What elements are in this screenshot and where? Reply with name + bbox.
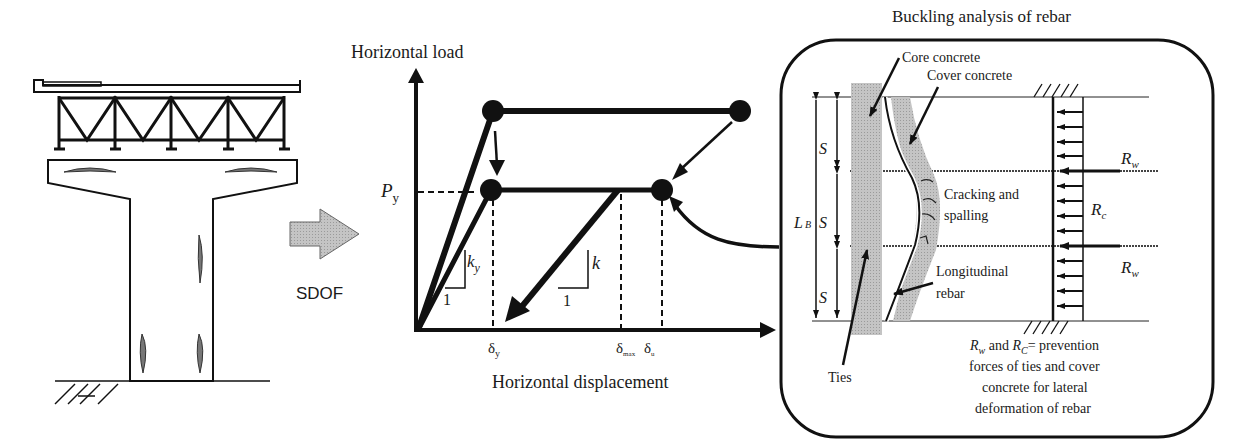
- lb-label: LB: [793, 214, 811, 231]
- arrow-diagonal-end: [680, 122, 732, 170]
- py-label: Py: [380, 180, 400, 205]
- core-concrete-strip: [851, 83, 882, 335]
- lower-bilinear-curve: [418, 190, 662, 330]
- x-axis-label: Horizontal displacement: [492, 372, 668, 392]
- cracking-label-1: Cracking and: [944, 187, 1019, 202]
- truss-girder: [54, 96, 290, 149]
- note-line-4: deformation of rebar: [975, 401, 1091, 416]
- sdof-transition: SDOF: [290, 209, 359, 303]
- point-upper-yield: [482, 100, 504, 122]
- y-axis-label: Horizontal load: [351, 42, 463, 62]
- point-lower-yield: [480, 179, 502, 201]
- note-line-2: forces of ties and cover: [969, 359, 1100, 374]
- delta-max-label: δmax: [616, 340, 636, 358]
- delta-y-label: δy: [488, 340, 500, 359]
- delta-u-label: δu: [644, 340, 655, 358]
- longitudinal-label-1: Longitudinal: [936, 264, 1008, 279]
- cracking-label-2: spalling: [944, 208, 988, 223]
- buckling-analysis-panel: Buckling analysis of rebar S S S LB: [781, 7, 1213, 437]
- connector-curve-arrowhead: [669, 196, 683, 212]
- rw-label-2: Rw: [1120, 258, 1139, 279]
- s-label-3: S: [819, 289, 827, 306]
- rc-distributed-arrows: [1057, 112, 1083, 306]
- ky-run-label: 1: [443, 291, 451, 308]
- rc-label: Rc: [1090, 200, 1106, 221]
- right-arrow-icon: [290, 209, 359, 259]
- arrow-down-yield-head: [489, 160, 505, 176]
- pier-outline: [48, 160, 297, 381]
- x-axis-arrowhead: [760, 322, 776, 338]
- load-displacement-chart: Horizontal load ky 1 k: [351, 42, 779, 392]
- note-line-3: concrete for lateral: [982, 380, 1088, 395]
- ties-label: Ties: [828, 370, 852, 385]
- connector-curve-arrow: [675, 205, 779, 247]
- k-run-label: 1: [563, 292, 571, 309]
- note-line-1: Rw and RC= prevention: [969, 338, 1099, 356]
- k-label: k: [592, 253, 601, 273]
- rw-tie-arrows: [1060, 171, 1120, 246]
- rw-label-1: Rw: [1120, 149, 1139, 170]
- y-axis-arrowhead: [408, 68, 424, 83]
- bridge-illustration: [34, 80, 300, 404]
- s-label-2: S: [819, 214, 827, 231]
- figure-canvas: SDOF Horizontal load ky 1: [0, 0, 1249, 441]
- point-upper-end: [729, 100, 751, 122]
- cover-concrete-leader: [910, 87, 938, 144]
- cover-concrete-label: Cover concrete: [927, 68, 1012, 83]
- longitudinal-label-2: rebar: [936, 286, 965, 301]
- core-concrete-label: Core concrete: [902, 50, 980, 65]
- wall-hatch-bottom: [1024, 321, 1068, 334]
- s-label-1: S: [819, 140, 827, 157]
- wall-hatch-top: [1034, 84, 1078, 97]
- ground-hatch: [55, 384, 118, 404]
- sdof-label: SDOF: [296, 284, 343, 303]
- ky-label: ky: [467, 252, 481, 275]
- arrow-down-yield: [495, 131, 497, 165]
- panel-title: Buckling analysis of rebar: [892, 7, 1071, 26]
- upper-bilinear-curve: [418, 111, 740, 330]
